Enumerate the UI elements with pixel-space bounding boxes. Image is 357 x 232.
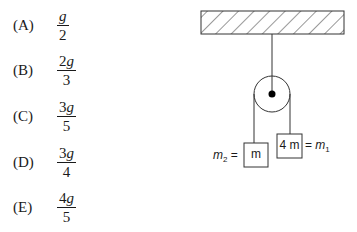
- ceiling-support: [201, 11, 344, 34]
- left-block-text: m: [244, 147, 268, 161]
- pulley-axle: [269, 91, 276, 98]
- right-block-text: 4 m: [277, 138, 302, 152]
- m1-label: = m1: [305, 138, 330, 154]
- m2-label: m2 =: [213, 148, 238, 164]
- pulley-diagram: [0, 0, 357, 232]
